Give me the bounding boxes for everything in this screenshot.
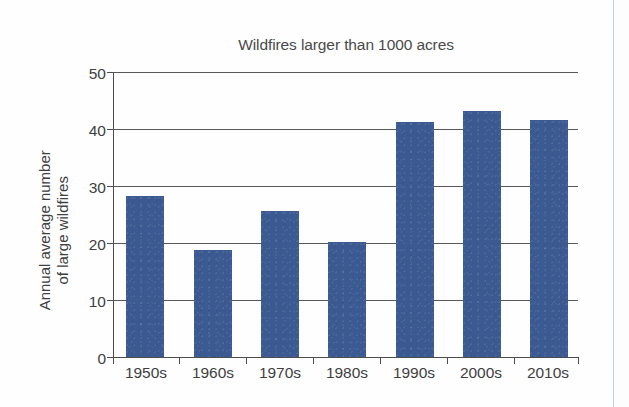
bar-1980s [328,242,366,357]
y-tick-label-40: 40 [66,123,106,139]
x-tick-mark-7 [578,358,579,364]
y-tick-label-20: 20 [66,237,106,253]
y-axis-tick-labels: 50 40 30 20 10 0 [62,72,106,358]
y-tick-label-10: 10 [66,294,106,310]
chart-title: Wildfires larger than 1000 acres [113,36,579,54]
x-tick-label-1990s: 1990s [381,365,447,381]
plot-area [113,72,578,357]
x-tick-mark-4 [380,358,381,364]
x-tick-mark-0 [113,358,114,364]
x-tick-label-1980s: 1980s [314,365,380,381]
bar-chart: Wildfires larger than 1000 acres Annual … [0,0,629,407]
y-tick-label-0: 0 [66,351,106,367]
gridline-50 [113,72,578,73]
x-tick-label-2000s: 2000s [448,365,514,381]
gridline-40 [113,129,578,130]
bar-2010s [530,120,568,357]
x-tick-mark-5 [447,358,448,364]
bar-1970s [261,211,299,357]
x-tick-mark-2 [246,358,247,364]
bar-1960s [194,250,232,357]
x-tick-mark-3 [313,358,314,364]
x-tick-label-1960s: 1960s [180,365,246,381]
y-tick-label-50: 50 [66,66,106,82]
bar-1990s [396,122,434,357]
y-tick-label-30: 30 [66,180,106,196]
x-tick-label-1950s: 1950s [113,365,179,381]
x-tick-label-2010s: 2010s [515,365,581,381]
x-tick-mark-6 [514,358,515,364]
bar-1950s [126,196,164,357]
x-tick-mark-1 [179,358,180,364]
bar-2000s [463,111,501,357]
x-axis-tick-labels: 1950s 1960s 1970s 1980s 1990s 2000s 2010… [113,365,579,391]
x-axis-line [113,357,579,358]
y-axis-line [113,72,114,358]
x-tick-label-1970s: 1970s [247,365,313,381]
y-axis-title-line-1: Annual average number [36,80,54,380]
gridline-30 [113,186,578,187]
